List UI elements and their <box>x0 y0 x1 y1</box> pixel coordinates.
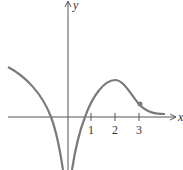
x-axis: x <box>8 110 183 124</box>
tick-label-1: 1 <box>88 123 94 137</box>
curve-left-branch <box>8 67 63 170</box>
y-axis-label: y <box>72 0 79 12</box>
tick-label-2: 2 <box>112 123 118 137</box>
x-axis-label: x <box>177 110 183 124</box>
curve-right-branch <box>72 80 165 170</box>
tick-label-3: 3 <box>136 123 142 137</box>
function-graph: y x 1 2 3 <box>0 0 183 170</box>
marked-point <box>138 102 143 107</box>
